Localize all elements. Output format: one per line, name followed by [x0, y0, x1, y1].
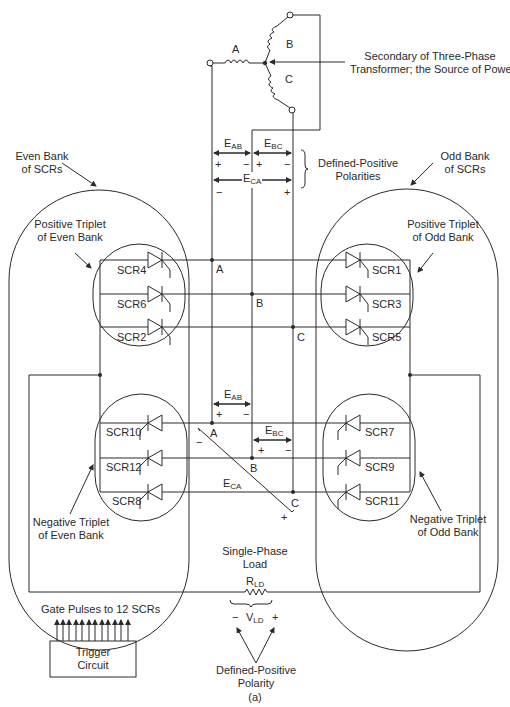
- even-bank-label: Even Bankof SCRs: [10, 150, 74, 176]
- phase-a-label: A: [232, 43, 239, 56]
- node-c-neg: C: [291, 497, 299, 510]
- eab-minus: −: [243, 158, 249, 171]
- defined-positive-polarity-label: Defined-PositivePolarity: [206, 664, 306, 690]
- node-b-pos: B: [256, 297, 263, 310]
- eca-mid-minus: −: [196, 436, 202, 449]
- scr11-symbol: [338, 484, 360, 509]
- scr11-label: SCR11: [365, 495, 400, 508]
- figure-caption: (a): [235, 691, 275, 704]
- ebc-mid-minus: −: [285, 444, 291, 457]
- ebc-mid-plus: +: [258, 444, 264, 457]
- scr2-label: SCR2: [117, 331, 146, 344]
- eab-mid-label: EAB: [224, 388, 242, 404]
- vld-label: VLD: [246, 611, 264, 627]
- gate-pulses-label: Gate Pulses to 12 SCRs: [41, 603, 160, 616]
- scr3-symbol: [346, 286, 368, 312]
- scr12-symbol: [140, 450, 162, 475]
- ebc-minus: −: [284, 158, 290, 171]
- eab-mid-minus: −: [243, 408, 249, 421]
- scr7-symbol: [338, 415, 360, 440]
- phase-b-label: B: [286, 38, 293, 51]
- trigger-circuit-label: TriggerCircuit: [50, 646, 136, 672]
- scr8-symbol: [140, 484, 162, 509]
- scr4-symbol: [148, 252, 170, 278]
- node-c-pos: C: [297, 331, 305, 344]
- odd-negative-triplet-label: Negative Tripletof Odd Bank: [405, 513, 491, 539]
- odd-positive-triplet-label: Positive Tripletof Odd Bank: [400, 218, 486, 244]
- eab-top-label: EAB: [224, 137, 242, 153]
- phase-c-label: C: [285, 73, 293, 86]
- scr7-label: SCR7: [365, 426, 394, 439]
- scr5-label: SCR5: [372, 331, 401, 344]
- node-a-pos: A: [216, 263, 223, 276]
- node-a-neg: A: [210, 427, 217, 440]
- even-positive-triplet-label: Positive Tripletof Even Bank: [30, 218, 110, 244]
- transformer-label: Secondary of Three-Phase Transformer; th…: [350, 50, 510, 76]
- scr6-symbol: [148, 286, 170, 312]
- scr9-symbol: [338, 450, 360, 475]
- scr1-symbol: [346, 252, 368, 278]
- eca-mid-label: ECA: [223, 477, 241, 493]
- defined-positive-polarities-label: Defined-Positive Polarities: [308, 157, 408, 183]
- even-negative-triplet-label: Negative Tripletof Even Bank: [28, 516, 114, 542]
- eca-minus: −: [216, 186, 222, 199]
- odd-bank-outline: [316, 189, 498, 651]
- vld-plus: +: [272, 611, 278, 624]
- scr9-label: SCR9: [365, 461, 394, 474]
- scr10-label: SCR10: [106, 426, 141, 439]
- node-b-neg: B: [250, 462, 257, 475]
- ebc-plus: +: [256, 158, 262, 171]
- eab-plus: +: [215, 158, 221, 171]
- ebc-top-label: EBC: [264, 137, 282, 153]
- scr4-label: SCR4: [117, 264, 146, 277]
- eca-top-label: ECA: [242, 172, 262, 188]
- scr12-label: SCR12: [106, 461, 141, 474]
- scr10-symbol: [140, 415, 162, 440]
- eab-mid-plus: +: [216, 408, 222, 421]
- circuit-schematic: [0, 0, 510, 707]
- ebc-mid-label: EBC: [265, 424, 283, 440]
- single-phase-load-label: Single-PhaseLoad: [215, 545, 295, 571]
- gate-pulse-arrows: [57, 620, 128, 641]
- odd-bank-label: Odd Bankof SCRs: [433, 150, 497, 176]
- rld-label: RLD: [246, 575, 264, 591]
- scr1-label: SCR1: [372, 264, 401, 277]
- scr5-symbol: [346, 319, 368, 345]
- scr6-label: SCR6: [117, 298, 146, 311]
- vld-minus: −: [232, 611, 238, 624]
- eca-plus: +: [284, 186, 290, 199]
- eca-mid-plus: +: [281, 511, 287, 524]
- scr3-label: SCR3: [372, 298, 401, 311]
- scr8-label: SCR8: [112, 495, 141, 508]
